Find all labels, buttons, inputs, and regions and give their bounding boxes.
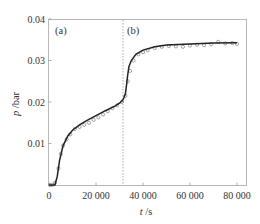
fit-curve [49, 43, 237, 185]
y-tick-label: 0.03 [28, 55, 46, 66]
y-tick-label: 0.02 [28, 97, 46, 108]
measured-points [49, 40, 239, 186]
y-axis-ticks: 0.010.020.030.04 [28, 14, 52, 150]
x-tick-label: 80 000 [223, 190, 251, 201]
x-tick-label: 60 000 [176, 190, 204, 201]
y-tick-label: 0.01 [28, 138, 46, 149]
x-tick-label: 0 [47, 190, 52, 201]
plot-frame [49, 20, 247, 186]
x-tick-label: 20 000 [82, 190, 110, 201]
y-axis-label: p /bar [10, 91, 21, 117]
x-tick-label: 40 000 [129, 190, 157, 201]
y-tick-label: 0.04 [28, 14, 46, 25]
panel-b-label: (b) [127, 25, 140, 37]
pressure-time-chart: 0.010.020.030.04 020 00040 00060 00080 0… [0, 0, 260, 224]
panel-a-label: (a) [55, 25, 67, 37]
x-axis-label: t /s [140, 206, 153, 217]
